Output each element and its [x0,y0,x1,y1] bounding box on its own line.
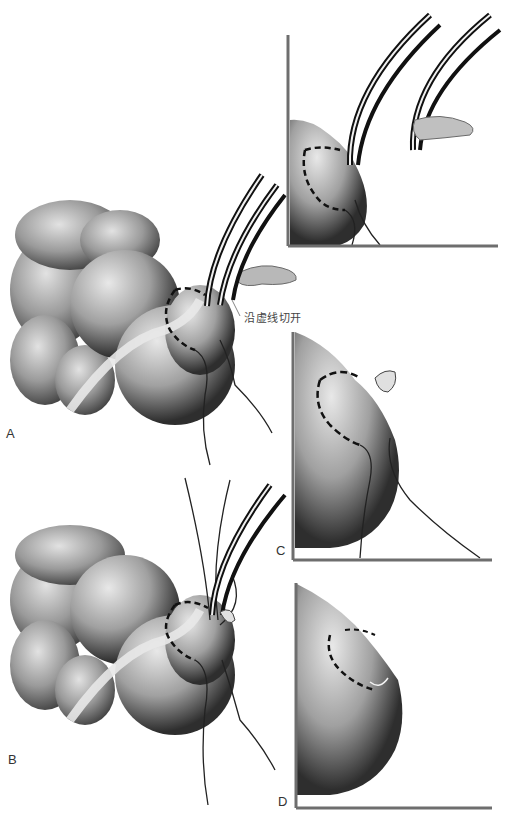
panel-d-illustration [295,583,492,808]
annotation-leader-line [232,300,240,316]
panel-a-illustration [10,200,272,465]
panel-a-appendix [238,266,296,286]
panel-label-d: D [278,794,287,809]
panel-label-b: B [8,752,17,767]
panel-c-illustration [293,332,492,560]
panel-top-inset [288,15,500,246]
panel-a-forceps [207,175,285,306]
panel-b-illustration [10,478,285,805]
panel-label-a: A [6,426,15,441]
illustration-canvas [0,0,511,830]
incision-annotation: 沿虚线切开 [244,309,302,325]
panel-label-c: C [276,543,285,558]
